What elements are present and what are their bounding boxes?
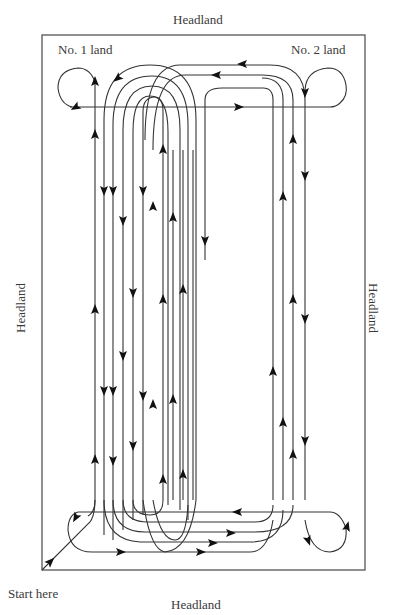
direction-arrows [44,60,352,568]
land-1-bottom-arcs [104,150,293,552]
top-right-loop [305,68,346,103]
top-left-loop [58,68,95,107]
land-1-top-arcs [104,65,196,540]
field-border [42,35,365,570]
top-return-lines [145,65,305,500]
land-1-first-furrow [88,82,95,516]
bottom-right-loop [305,520,346,552]
ploughing-diagram [0,0,401,615]
